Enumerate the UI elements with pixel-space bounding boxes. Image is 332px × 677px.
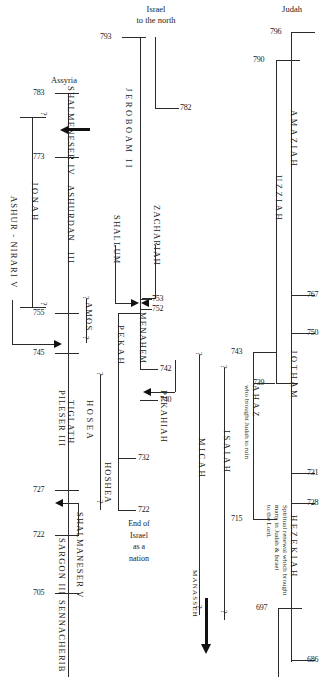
hosea-start-q: ? — [95, 372, 104, 376]
label-amos: AMOS — [85, 302, 94, 331]
label-sennacherib: SENNACHERIB — [58, 600, 67, 673]
label-sargon-iii: SARGON III — [58, 538, 67, 596]
tick-796 — [291, 32, 315, 33]
year-752: 752 — [152, 305, 163, 313]
label-shallum: SHALLUM — [113, 215, 122, 265]
hosea-bar — [100, 375, 101, 510]
jeroboam-right-line — [155, 37, 156, 108]
note-hezekiah-line1: Spiritual renewal which brought — [281, 505, 288, 595]
isaiah-end-q: ? — [219, 610, 228, 614]
label-ahaz: AHAZ — [252, 385, 261, 419]
label-isaiah: ISAIAH — [223, 430, 232, 474]
year-755: 755 — [33, 309, 44, 317]
label-pekah: PEKAH — [117, 325, 126, 366]
israel-header-line2: to the north — [123, 15, 189, 26]
zachariah-arrow — [141, 299, 149, 307]
year-732: 732 — [138, 454, 149, 462]
tick-722-israel — [118, 510, 136, 511]
amos-end-q: ? — [81, 336, 90, 340]
year-722-israel: 722 — [138, 506, 149, 514]
tick-740 — [140, 400, 158, 401]
note-hezekiah-line2: many in Judah & Israel — [273, 505, 280, 570]
end-line1: End of — [118, 518, 160, 530]
year-745: 745 — [33, 349, 44, 357]
hosea-end-q: ? — [95, 500, 104, 504]
israel-header-line1: Israel — [123, 4, 189, 15]
pekahiah-arrow — [143, 388, 151, 396]
label-zachariah: ZACHARIAH — [153, 205, 162, 266]
zachariah-line — [155, 245, 156, 298]
label-ashur-nirari-v: ASHUR - NIRARI V — [10, 196, 19, 288]
shalmaneser-v-line — [78, 503, 79, 535]
label-pileser-iii: PILESER III — [58, 390, 67, 447]
jonah-top-cap — [20, 117, 46, 118]
column-header-israel: Israel to the north — [123, 4, 189, 25]
tick-793 — [122, 37, 146, 38]
manasseh-shaft — [205, 598, 208, 646]
ahaz-bar — [253, 352, 254, 519]
year-722-assyria: 722 — [33, 531, 44, 539]
shalmaneser-v-connector — [62, 503, 79, 504]
label-tiglath: TIGLATH — [67, 400, 76, 444]
ashur-nirari-connector — [12, 344, 54, 345]
tick-697 — [278, 608, 302, 609]
label-manasseh: MANASSEH — [191, 570, 198, 618]
note-end-of-israel: End of Israel as a nation — [118, 518, 160, 564]
label-ashurdan-iii-numeral: III — [67, 252, 76, 264]
israel-axis-line — [140, 37, 141, 309]
year-686: 686 — [307, 656, 318, 664]
label-jonah: JONAH — [31, 182, 40, 223]
tick-782 — [155, 108, 179, 109]
label-hezekiah: HEZEKIAH — [290, 515, 299, 579]
year-731: 731 — [307, 469, 318, 477]
year-705: 705 — [33, 589, 44, 597]
tick-753 — [140, 299, 152, 300]
amos-start-q: ? — [81, 296, 90, 300]
year-715: 715 — [231, 515, 242, 523]
year-728: 728 — [307, 499, 318, 507]
year-742: 742 — [160, 365, 171, 373]
shallum-arrow — [131, 299, 139, 307]
shalmeneser-iv-arrow — [60, 126, 68, 134]
year-753: 753 — [152, 295, 163, 303]
tick-755 — [55, 313, 79, 314]
year-796: 796 — [270, 28, 281, 36]
year-727: 727 — [33, 486, 44, 494]
manasseh-drop — [278, 608, 279, 677]
tick-745 — [55, 353, 79, 354]
tick-743b — [253, 352, 277, 353]
shallum-connector — [115, 303, 131, 304]
year-697: 697 — [256, 604, 267, 612]
tick-727 — [55, 490, 79, 491]
label-jeroboam-ii: JEROBOAM II — [125, 88, 134, 170]
hoshea-bar — [118, 458, 119, 510]
shalmaneser-v-arrow — [55, 499, 63, 507]
micah-start-q: ? — [194, 352, 203, 356]
year-793: 793 — [100, 33, 111, 41]
year-782: 782 — [180, 104, 191, 112]
label-hosea: HOSEA — [86, 400, 95, 441]
tick-752 — [140, 309, 152, 310]
end-line3: as a — [118, 541, 160, 553]
label-uzziah: UZZIAH — [275, 175, 284, 222]
ashur-nirari-arrow — [54, 340, 62, 348]
label-shalmaneser-v: SHALMANESER V — [76, 512, 85, 599]
label-amaziah: AMAZIAH — [290, 110, 299, 168]
year-750-judah: 750 — [307, 329, 318, 337]
assyria-axis-line — [68, 93, 69, 677]
isaiah-start-q: ? — [219, 365, 228, 369]
timeline-chart: Israel to the north Judah Assyria 796 79… — [0, 0, 332, 677]
jonah-start-q: ? — [39, 112, 48, 116]
year-767: 767 — [307, 291, 318, 299]
jonah-end-q: ? — [39, 302, 48, 306]
jonah-bottom-cap — [20, 307, 46, 308]
year-743: 743 — [231, 348, 242, 356]
year-773: 773 — [33, 153, 44, 161]
note-ahaz: who brought Judah to ruin — [243, 385, 250, 459]
tick-743 — [253, 383, 275, 384]
note-hezekiah-line3: to the Lord. — [265, 505, 272, 538]
tick-732 — [118, 458, 136, 459]
tick-742 — [140, 369, 158, 370]
column-header-assyria: Assyria — [42, 75, 86, 86]
label-menahem: MENAHEM — [139, 312, 148, 364]
